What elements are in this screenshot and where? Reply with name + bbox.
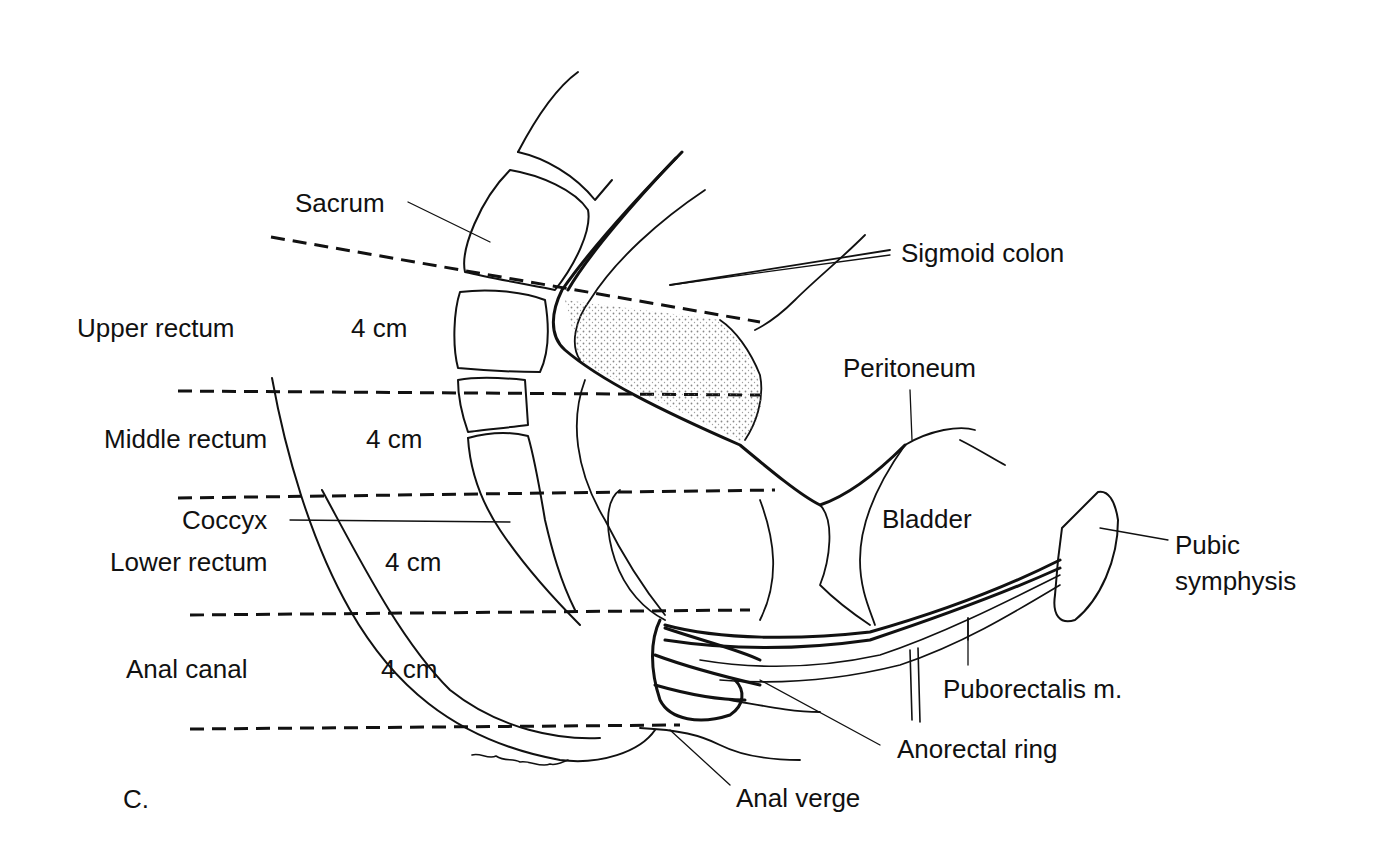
segment-anal-canal-length: 4 cm [381, 656, 437, 682]
leader-peritoneum [910, 390, 912, 440]
segment-upper-rectum-length: 4 cm [351, 315, 407, 341]
label-peritoneum: Peritoneum [843, 355, 976, 381]
anatomy-diagram: Sacrum Sigmoid colon Peritoneum Bladder … [0, 0, 1390, 863]
level-line-anal-verge [190, 725, 680, 729]
leader-anal-verge [670, 730, 730, 785]
label-anal-verge: Anal verge [736, 785, 860, 811]
posterior-body-outline [272, 378, 655, 761]
segment-anal-canal: Anal canal [126, 656, 247, 682]
level-line-lower-anal [190, 610, 750, 615]
level-line-middle-lower [178, 490, 775, 498]
label-pubic-symphysis-2: symphysis [1175, 568, 1296, 594]
segment-upper-rectum: Upper rectum [77, 315, 235, 341]
segment-lower-rectum: Lower rectum [110, 549, 268, 575]
segment-lower-rectum-length: 4 cm [385, 549, 441, 575]
label-puborectalis: Puborectalis m. [943, 676, 1122, 702]
segment-middle-rectum-length: 4 cm [366, 426, 422, 452]
leader-pubic-symphysis [1100, 528, 1168, 540]
label-bladder: Bladder [882, 506, 972, 532]
panel-letter: C. [123, 786, 149, 812]
leader-coccyx [290, 520, 510, 522]
pubic-symphysis-bone [1054, 492, 1118, 622]
label-pubic-symphysis-1: Pubic [1175, 532, 1240, 558]
label-sacrum: Sacrum [295, 190, 385, 216]
level-line-top [271, 237, 760, 322]
label-coccyx: Coccyx [182, 507, 267, 533]
label-anorectal-ring: Anorectal ring [897, 736, 1057, 762]
leader-sacrum [408, 202, 490, 242]
leader-sigmoid [670, 255, 890, 285]
label-sigmoid-colon: Sigmoid colon [901, 240, 1064, 266]
segment-middle-rectum: Middle rectum [104, 426, 267, 452]
leader-anorectal-ring [760, 680, 880, 745]
